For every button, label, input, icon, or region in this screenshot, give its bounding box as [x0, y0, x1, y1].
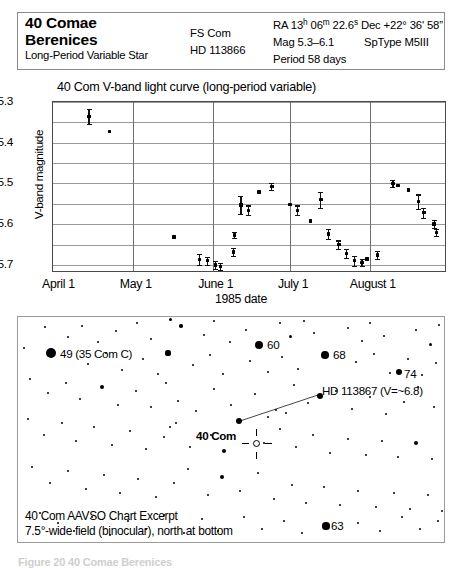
field-star — [389, 372, 392, 375]
error-bar-cap — [421, 208, 426, 209]
field-star — [295, 446, 297, 448]
field-star — [243, 516, 245, 518]
data-point — [327, 232, 330, 235]
error-bar-cap — [326, 239, 331, 240]
field-star — [61, 422, 63, 424]
data-point — [108, 130, 111, 133]
horizontal-gridline — [53, 163, 445, 164]
light-curve-plot-area — [52, 101, 446, 272]
comparison-star — [322, 522, 329, 529]
data-point — [288, 203, 291, 206]
y-tick-label: 5.3 — [0, 94, 13, 108]
data-point — [337, 243, 340, 246]
field-star — [403, 401, 405, 403]
field-star — [67, 470, 69, 472]
data-point — [206, 259, 209, 262]
field-star — [187, 468, 189, 470]
field-star — [222, 373, 224, 375]
field-star — [230, 404, 232, 406]
field-star — [357, 522, 359, 524]
field-star — [157, 373, 159, 375]
field-star — [142, 358, 145, 361]
data-point — [232, 250, 235, 253]
field-star — [415, 329, 417, 331]
error-bar-cap — [87, 109, 92, 110]
field-star — [209, 354, 212, 357]
ra-second-unit: s — [354, 17, 358, 27]
error-bar-cap — [218, 270, 223, 271]
error-bar-cap — [360, 266, 365, 267]
field-star — [65, 382, 67, 384]
error-bar-cap — [416, 194, 421, 195]
field-star — [136, 322, 138, 324]
data-point — [87, 115, 90, 118]
error-bar-cap — [238, 196, 243, 197]
field-star — [285, 412, 287, 414]
error-bar-cap — [434, 229, 439, 230]
field-star — [444, 427, 445, 430]
field-star — [220, 475, 225, 480]
star-name-line2: Berenices — [25, 32, 185, 49]
aavso-star-chart: 49 (35 Com C)606874HD 113867 (V=~6.8)40 … — [17, 316, 445, 543]
data-point — [233, 233, 236, 236]
field-star — [375, 506, 377, 508]
horizontal-gridline — [53, 224, 445, 225]
field-star — [111, 444, 113, 446]
error-bar-cap — [87, 124, 92, 125]
error-bar-cap — [231, 256, 236, 257]
field-star — [195, 410, 197, 412]
caption-line-1: 40 Com AAVSO Chart Excerpt — [25, 509, 233, 524]
error-bar-cap — [416, 209, 421, 210]
field-star — [100, 385, 105, 390]
field-star — [427, 494, 429, 496]
period-value: Period 58 days — [273, 51, 445, 68]
data-point — [198, 258, 201, 261]
data-point — [257, 190, 260, 193]
field-star — [150, 338, 152, 340]
field-star — [307, 402, 310, 405]
field-star — [437, 520, 439, 522]
error-bar-cap — [375, 251, 380, 252]
vertical-gridline — [290, 102, 291, 271]
error-bar-cap — [352, 266, 357, 267]
field-star — [339, 504, 341, 506]
field-star — [381, 440, 383, 442]
field-star — [291, 484, 293, 486]
field-star — [47, 392, 50, 395]
error-bar-cap — [238, 214, 243, 215]
field-star — [29, 378, 31, 380]
field-star — [267, 371, 270, 374]
data-point — [432, 222, 435, 225]
field-star — [303, 320, 305, 322]
field-star — [281, 356, 283, 358]
field-star — [137, 478, 139, 480]
data-point — [360, 261, 363, 264]
error-bar-cap — [269, 183, 274, 184]
error-bar-cap — [344, 258, 349, 259]
field-star — [169, 426, 171, 428]
field-star — [289, 335, 292, 338]
field-star — [150, 406, 153, 409]
data-point — [365, 257, 368, 260]
field-star — [119, 492, 122, 495]
data-point — [309, 219, 312, 222]
comparison-star — [236, 418, 243, 425]
field-star — [93, 426, 95, 428]
field-star — [438, 324, 440, 326]
field-star — [145, 448, 147, 450]
field-star — [279, 322, 281, 324]
light-curve-title: 40 Com V-band light curve (long-period v… — [57, 80, 316, 94]
field-star — [254, 393, 256, 395]
field-star — [155, 496, 157, 498]
field-star — [267, 416, 269, 418]
field-star — [433, 406, 436, 409]
figure-caption: Figure 20 40 Comae Berenices — [18, 556, 448, 568]
y-tick-label: 5.5 — [0, 175, 13, 189]
field-star — [393, 492, 395, 494]
horizontal-gridline — [53, 143, 445, 144]
field-star — [173, 482, 175, 484]
vertical-gridline — [213, 102, 214, 271]
field-star — [441, 510, 443, 512]
data-point — [422, 211, 425, 214]
vertical-gridline — [133, 102, 134, 271]
